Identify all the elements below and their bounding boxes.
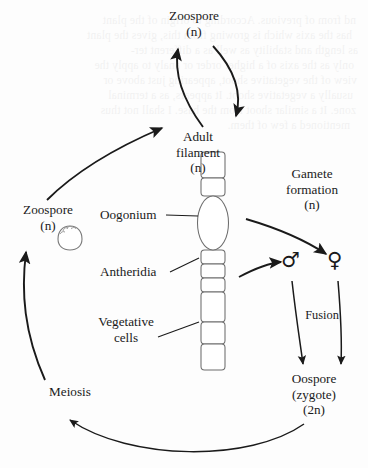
adult-filament-ploidy: (n) bbox=[152, 160, 244, 176]
oospore-ploidy: (2n) bbox=[266, 402, 362, 418]
arrow-antheridia-to-male bbox=[239, 262, 281, 277]
gamete-formation-ploidy: (n) bbox=[261, 197, 363, 213]
female-gamete-symbol: ♀ bbox=[327, 250, 342, 271]
callout-label-antheridia: Antheridia bbox=[100, 264, 172, 280]
zoospore-top-ploidy: (n) bbox=[146, 24, 242, 40]
filament-cell-antheridium bbox=[201, 250, 225, 264]
oogonium-text: Oogonium bbox=[100, 207, 156, 222]
filament-cell-chain bbox=[198, 152, 229, 370]
filament-cell bbox=[201, 292, 225, 322]
node-label-gamete-formation: Gamete formation (n) bbox=[261, 166, 363, 213]
arrow-zoospore-to-adult bbox=[213, 46, 238, 116]
filament-cell-antheridium bbox=[201, 278, 225, 292]
adult-filament-name: Adult bbox=[183, 129, 213, 144]
oospore-name: Oospore bbox=[292, 371, 337, 386]
leader-line-antheridia bbox=[170, 258, 199, 272]
filament-cell bbox=[201, 344, 225, 370]
oogonium-cell bbox=[198, 196, 229, 250]
arrow-meiosis-to-zoospore bbox=[24, 252, 45, 380]
node-label-zoospore-top: Zoospore (n) bbox=[146, 8, 242, 39]
arrow-adult-to-zoospore bbox=[177, 49, 203, 127]
arrow-oospore-to-meiosis bbox=[70, 420, 304, 452]
oospore-name2: (zygote) bbox=[266, 387, 362, 403]
zoospore-left-ploidy: (n) bbox=[6, 218, 90, 234]
node-label-fusion: Fusion bbox=[295, 308, 349, 324]
antheridia-text: Antheridia bbox=[100, 264, 156, 279]
callout-label-oogonium: Oogonium bbox=[100, 207, 166, 223]
arrow-zoospore-left-to-adult bbox=[47, 128, 162, 200]
node-label-meiosis: Meiosis bbox=[31, 384, 109, 400]
gamete-formation-name2: formation bbox=[261, 182, 363, 198]
vegetative-cells-line1: Vegetative bbox=[98, 314, 154, 329]
life-cycle-diagram: nd from of previous. According to origin… bbox=[0, 0, 368, 468]
zoospore-left-name: Zoospore bbox=[23, 202, 73, 217]
male-gamete-symbol: ♂ bbox=[281, 250, 300, 271]
filament-cell-antheridium bbox=[201, 264, 225, 278]
node-label-zoospore-left: Zoospore (n) bbox=[6, 202, 90, 233]
vegetative-cells-line2: cells bbox=[92, 330, 160, 346]
fusion-name: Fusion bbox=[305, 308, 339, 322]
node-label-adult-filament: Adult filament (n) bbox=[152, 129, 244, 176]
filament-cell bbox=[201, 178, 225, 196]
adult-filament-name2: filament bbox=[152, 145, 244, 161]
gamete-formation-name: Gamete bbox=[291, 166, 332, 181]
leader-line-vegetative-cells bbox=[158, 322, 199, 337]
zoospore-top-name: Zoospore bbox=[169, 8, 219, 23]
filament-cell bbox=[201, 322, 225, 344]
leader-line-oogonium bbox=[166, 215, 198, 216]
callout-label-vegetative-cells: Vegetative cells bbox=[92, 314, 160, 345]
node-label-oospore: Oospore (zygote) (2n) bbox=[266, 371, 362, 418]
meiosis-name: Meiosis bbox=[49, 384, 91, 399]
